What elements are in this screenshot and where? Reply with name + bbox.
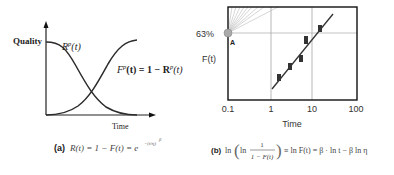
data-point — [304, 36, 308, 44]
panel-b: A 63% F(t) 0.1 1 10 100 Time (b) ln ( ln… — [196, 7, 367, 161]
fit-line — [272, 14, 333, 89]
x-tick-0-1: 0.1 — [222, 104, 235, 114]
caption-a-exponent-power: β — [158, 137, 162, 142]
data-points — [277, 25, 322, 81]
panel-a: Quality Rp(t) Fp(t) = 1 − Rp(t) Time (a)… — [13, 21, 183, 153]
caption-b-frac-den: 1 − F(t) — [251, 153, 274, 161]
x-tick-100: 100 — [348, 104, 363, 114]
x-tick-1: 1 — [268, 104, 273, 114]
y-axis-label: F(t) — [202, 54, 216, 64]
fan-lines — [228, 7, 278, 33]
f-curve — [46, 40, 137, 115]
f-curve-label: Fp(t) = 1 − Rp(t) — [116, 63, 183, 76]
caption-a-exponent: −(t/η) — [144, 141, 156, 146]
x-tick-10: 10 — [307, 104, 317, 114]
caption-a-formula: R(t) = 1 − F(t) = e — [69, 143, 138, 153]
caption-a-tag: (a) — [54, 143, 65, 153]
caption-b-ln-inner: ln — [240, 146, 246, 155]
x-axis-label: Time — [282, 119, 302, 129]
ref-63pct-label: 63% — [196, 29, 214, 39]
y-axis-arrow-icon — [44, 21, 49, 28]
x-axis-label: Time — [112, 122, 129, 131]
point-a-marker — [224, 29, 232, 37]
caption-b-ln: ln — [225, 146, 231, 155]
caption-b-paren-close: ) — [276, 141, 282, 160]
caption-b-frac-num: 1 — [260, 141, 264, 149]
data-point — [299, 55, 303, 62]
caption-b-tag: (b) — [211, 146, 222, 155]
x-axis-arrow-icon — [149, 113, 156, 118]
caption-b-formula: ≡ ln F(t) = β · ln t − β ln η — [284, 146, 367, 155]
plot-frame — [228, 7, 357, 100]
y-axis-label: Quality — [13, 36, 43, 46]
data-point — [318, 25, 322, 32]
point-a-label: A — [230, 39, 235, 46]
figure-canvas: Quality Rp(t) Fp(t) = 1 − Rp(t) Time (a)… — [0, 0, 394, 175]
data-point — [277, 74, 281, 81]
r-curve — [46, 42, 137, 115]
r-curve-label: Rp(t) — [61, 40, 81, 53]
data-point — [288, 63, 292, 70]
